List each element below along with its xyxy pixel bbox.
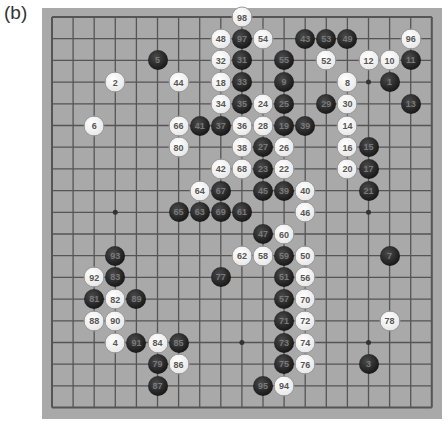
- white-stone: 22: [274, 158, 295, 179]
- white-stone: 50: [295, 245, 316, 266]
- white-stone: 2: [105, 72, 126, 93]
- black-stone: 43: [295, 29, 315, 49]
- black-stone: 77: [211, 267, 231, 287]
- black-stone: 39: [274, 181, 294, 201]
- star-point: [239, 340, 244, 345]
- white-stone: 28: [253, 115, 274, 136]
- black-stone: 45: [253, 181, 273, 201]
- black-stone: 13: [401, 94, 421, 114]
- black-stone: 25: [274, 94, 294, 114]
- black-stone: 27: [253, 137, 273, 157]
- white-stone: 90: [105, 310, 126, 331]
- black-stone: 65: [169, 202, 189, 222]
- white-stone: 66: [168, 115, 189, 136]
- white-stone: 32: [210, 50, 231, 71]
- white-stone: 98: [231, 7, 252, 28]
- black-stone: 75: [274, 354, 294, 374]
- go-board[interactable]: 9848975443534996532315552121011244183398…: [42, 8, 442, 419]
- white-stone: 82: [105, 289, 126, 310]
- black-stone: 69: [211, 202, 231, 222]
- white-stone: 84: [147, 332, 168, 353]
- white-stone: 96: [400, 28, 421, 49]
- white-stone: 18: [210, 72, 231, 93]
- black-stone: 63: [190, 202, 210, 222]
- white-stone: 76: [295, 354, 316, 375]
- black-stone: 33: [232, 72, 252, 92]
- black-stone: 53: [316, 29, 336, 49]
- black-stone: 37: [211, 116, 231, 136]
- black-stone: 1: [380, 72, 400, 92]
- black-stone: 11: [401, 50, 421, 70]
- white-stone: 94: [274, 375, 295, 396]
- black-stone: 57: [274, 289, 294, 309]
- white-stone: 16: [337, 137, 358, 158]
- black-stone: 23: [253, 159, 273, 179]
- black-stone: 91: [126, 333, 146, 353]
- black-stone: 17: [359, 159, 379, 179]
- white-stone: 34: [210, 93, 231, 114]
- white-stone: 40: [295, 180, 316, 201]
- white-stone: 8: [337, 72, 358, 93]
- black-stone: 87: [148, 376, 168, 396]
- black-stone: 85: [169, 333, 189, 353]
- black-stone: 55: [274, 50, 294, 70]
- white-stone: 30: [337, 93, 358, 114]
- white-stone: 72: [295, 310, 316, 331]
- white-stone: 46: [295, 202, 316, 223]
- black-stone: 71: [274, 311, 294, 331]
- black-stone: 35: [232, 94, 252, 114]
- black-stone: 3: [359, 354, 379, 374]
- white-stone: 20: [337, 158, 358, 179]
- black-stone: 51: [274, 267, 294, 287]
- white-stone: 48: [210, 28, 231, 49]
- black-stone: 31: [232, 50, 252, 70]
- white-stone: 10: [379, 50, 400, 71]
- star-point: [113, 210, 118, 215]
- white-stone: 26: [274, 137, 295, 158]
- star-point: [366, 80, 371, 85]
- white-stone: 70: [295, 289, 316, 310]
- star-point: [366, 210, 371, 215]
- black-stone: 47: [253, 224, 273, 244]
- white-stone: 80: [168, 137, 189, 158]
- black-stone: 29: [316, 94, 336, 114]
- white-stone: 56: [295, 267, 316, 288]
- white-stone: 58: [253, 245, 274, 266]
- black-stone: 21: [359, 181, 379, 201]
- white-stone: 86: [168, 354, 189, 375]
- black-stone: 41: [190, 116, 210, 136]
- black-stone: 89: [126, 289, 146, 309]
- white-stone: 12: [358, 50, 379, 71]
- white-stone: 54: [253, 28, 274, 49]
- black-stone: 61: [232, 202, 252, 222]
- black-stone: 95: [253, 376, 273, 396]
- white-stone: 52: [316, 50, 337, 71]
- black-stone: 39: [295, 116, 315, 136]
- white-stone: 44: [168, 72, 189, 93]
- black-stone: 73: [274, 333, 294, 353]
- white-stone: 36: [231, 115, 252, 136]
- white-stone: 68: [231, 158, 252, 179]
- white-stone: 6: [84, 115, 105, 136]
- white-stone: 74: [295, 332, 316, 353]
- black-stone: 67: [211, 181, 231, 201]
- white-stone: 88: [84, 310, 105, 331]
- black-stone: 7: [380, 246, 400, 266]
- black-stone: 81: [84, 289, 104, 309]
- black-stone: 93: [105, 246, 125, 266]
- white-stone: 64: [189, 180, 210, 201]
- black-stone: 15: [359, 137, 379, 157]
- black-stone: 49: [337, 29, 357, 49]
- white-stone: 92: [84, 267, 105, 288]
- white-stone: 38: [231, 137, 252, 158]
- star-point: [366, 340, 371, 345]
- white-stone: 14: [337, 115, 358, 136]
- figure-label: (b): [4, 2, 27, 24]
- white-stone: 24: [253, 93, 274, 114]
- black-stone: 59: [274, 246, 294, 266]
- white-stone: 78: [379, 310, 400, 331]
- white-stone: 4: [105, 332, 126, 353]
- white-stone: 42: [210, 158, 231, 179]
- black-stone: 9: [274, 72, 294, 92]
- black-stone: 5: [148, 50, 168, 70]
